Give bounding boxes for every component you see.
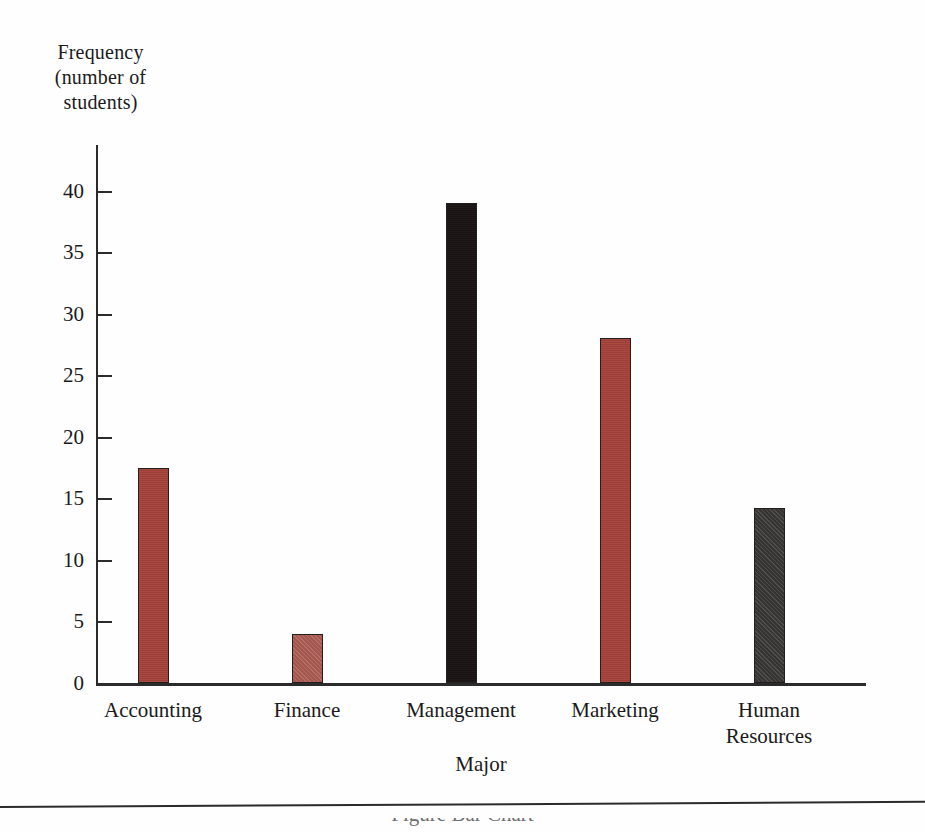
y-tick-mark	[98, 191, 112, 193]
x-label-accounting: Accounting	[73, 697, 233, 723]
y-axis-title-line-1: Frequency	[28, 40, 173, 65]
x-label-human-resources: Human Resources	[689, 697, 849, 749]
bar-human-resources	[754, 508, 785, 683]
bar-management	[446, 203, 477, 683]
y-tick-mark	[98, 252, 112, 254]
y-axis-title-line-3: students)	[28, 90, 173, 115]
bar-marketing	[600, 338, 631, 683]
y-tick-mark	[98, 498, 112, 500]
y-tick-label: 40	[44, 178, 84, 203]
x-axis-title: Major	[96, 752, 866, 777]
x-label-finance: Finance	[227, 697, 387, 723]
y-tick-label: 0	[44, 671, 84, 696]
y-tick-label: 15	[44, 486, 84, 511]
y-tick-mark	[98, 437, 112, 439]
bar-accounting	[138, 468, 169, 683]
x-label-marketing: Marketing	[535, 697, 695, 723]
y-tick-mark	[98, 375, 112, 377]
footer-divider	[0, 801, 925, 808]
plot-area: 0510152025303540 AccountingFinanceManage…	[96, 145, 866, 685]
y-tick-mark	[98, 683, 112, 685]
y-axis-title: Frequency (number of students)	[28, 40, 173, 115]
y-tick-label: 5	[44, 609, 84, 634]
bar-chart-figure: Frequency (number of students) 051015202…	[0, 0, 925, 832]
y-tick-mark	[98, 621, 112, 623]
bar-finance	[292, 634, 323, 683]
figure-caption-text: Figure Bar Chart	[391, 818, 533, 827]
y-axis-line	[96, 145, 98, 685]
x-label-management: Management	[381, 697, 541, 723]
y-tick-mark	[98, 314, 112, 316]
y-tick-mark	[98, 560, 112, 562]
y-tick-label: 10	[44, 547, 84, 572]
x-axis-line	[96, 683, 866, 686]
figure-caption-cropped: Figure Bar Chart	[0, 818, 925, 832]
y-tick-label: 30	[44, 301, 84, 326]
y-tick-label: 20	[44, 424, 84, 449]
y-axis-title-line-2: (number of	[28, 65, 173, 90]
y-tick-label: 25	[44, 363, 84, 388]
y-tick-label: 35	[44, 240, 84, 265]
